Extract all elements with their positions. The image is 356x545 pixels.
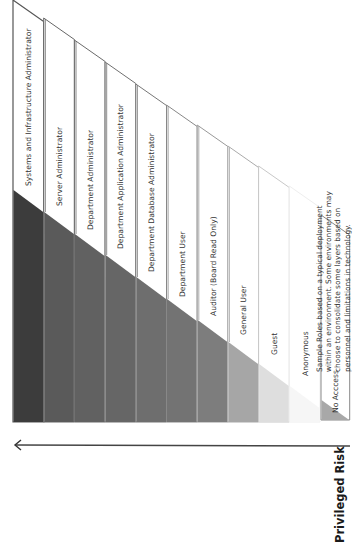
role-label: No Acccess [331, 370, 340, 413]
role-label: Department User [178, 230, 187, 297]
role-column: Department Database Administrator [136, 84, 167, 422]
role-column: Department Application Administrator [105, 62, 136, 422]
risk-arrow [15, 440, 350, 450]
role-columns: Systems and Infrastructure Administrator… [13, 0, 350, 422]
role-column: Department Administrator [74, 40, 105, 422]
role-column: Guest [259, 166, 290, 422]
role-label: Department Administrator [86, 129, 95, 230]
role-column: General User [228, 146, 259, 422]
sample-roles-note: Sample Roles based on a typical deployme… [315, 191, 352, 372]
role-label: General User [239, 284, 248, 335]
role-label: Anonymous [301, 331, 310, 376]
role-label: Guest [270, 333, 279, 355]
arrow-line [15, 445, 350, 446]
note-line: within an environment. Some environments… [324, 191, 333, 372]
role-label: Server Administrator [55, 126, 64, 206]
role-label: Department Application Administrator [116, 103, 125, 249]
axis-title: Privileged Risk [333, 446, 347, 543]
role-column: Server Administrator [44, 18, 75, 422]
role-label: Systems and Infrastructure Administrator [24, 28, 33, 186]
role-column: Auditor (Board Read Only) [197, 125, 228, 422]
role-column: Systems and Infrastructure Administrator [13, 0, 44, 422]
note-line: personnel and limitations in technology. [343, 224, 352, 372]
role-column: Department User [167, 105, 198, 422]
role-label: Auditor (Board Read Only) [209, 216, 218, 316]
privileged-risk-diagram: Systems and Infrastructure Administrator… [0, 0, 356, 545]
note-line: Sample Roles based on a typical deployme… [315, 205, 324, 372]
note-line: choose to consolidate some layers based … [333, 208, 342, 372]
role-label: Department Database Administrator [147, 132, 156, 272]
